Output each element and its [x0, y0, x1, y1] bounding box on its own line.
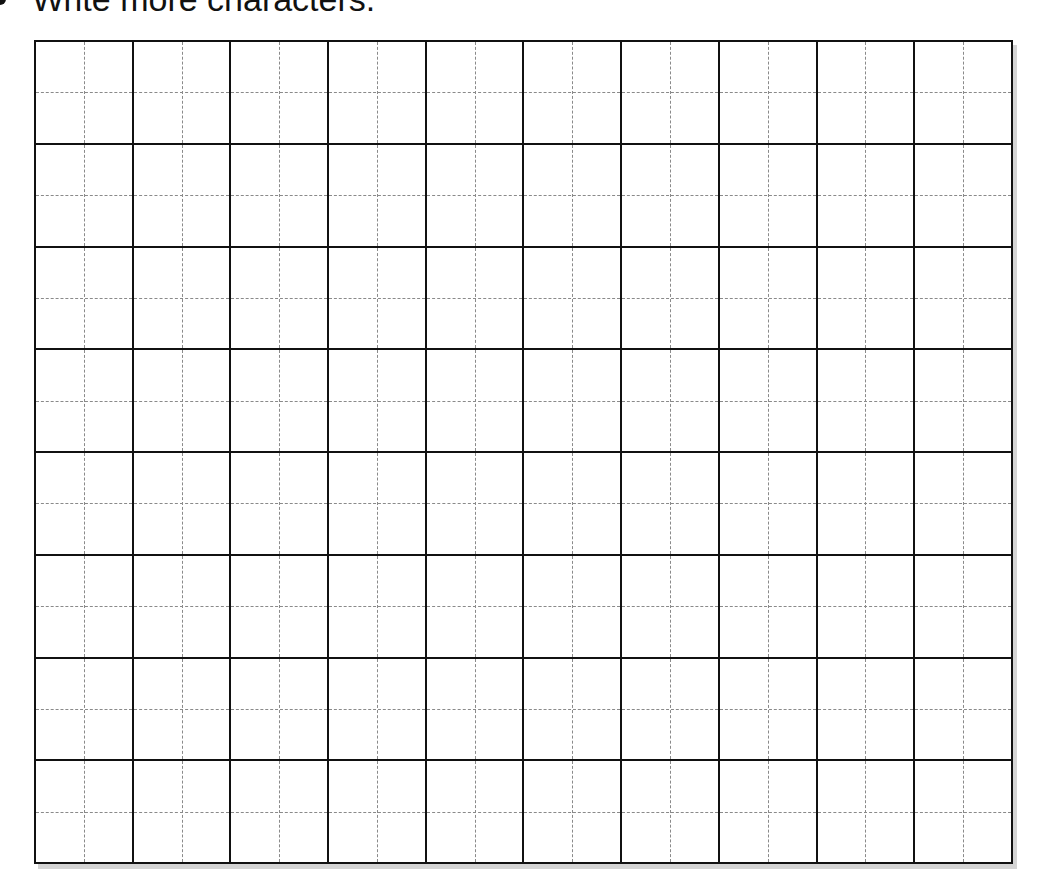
writing-cell[interactable]	[36, 556, 134, 659]
writing-cell[interactable]	[231, 145, 329, 248]
writing-cell[interactable]	[427, 761, 525, 864]
writing-cell[interactable]	[818, 556, 916, 659]
writing-cell[interactable]	[915, 453, 1013, 556]
horizontal-guide-line	[231, 606, 327, 607]
horizontal-guide-line	[720, 606, 816, 607]
horizontal-guide-line	[134, 195, 230, 196]
writing-cell[interactable]	[622, 453, 720, 556]
writing-cell[interactable]	[818, 248, 916, 351]
writing-cell[interactable]	[915, 145, 1013, 248]
writing-cell[interactable]	[231, 42, 329, 145]
writing-cell[interactable]	[231, 761, 329, 864]
writing-cell[interactable]	[231, 556, 329, 659]
writing-cell[interactable]	[134, 761, 232, 864]
horizontal-guide-line	[231, 195, 327, 196]
horizontal-guide-line	[329, 503, 425, 504]
horizontal-guide-line	[231, 401, 327, 402]
writing-cell[interactable]	[524, 350, 622, 453]
writing-cell[interactable]	[36, 453, 134, 556]
writing-cell[interactable]	[231, 248, 329, 351]
writing-cell[interactable]	[329, 350, 427, 453]
writing-cell[interactable]	[231, 453, 329, 556]
bullet-icon	[0, 0, 6, 5]
writing-cell[interactable]	[231, 659, 329, 762]
writing-cell[interactable]	[329, 42, 427, 145]
writing-cell[interactable]	[622, 556, 720, 659]
writing-cell[interactable]	[134, 350, 232, 453]
writing-cell[interactable]	[134, 42, 232, 145]
writing-cell[interactable]	[622, 145, 720, 248]
writing-cell[interactable]	[818, 350, 916, 453]
writing-cell[interactable]	[427, 145, 525, 248]
writing-cell[interactable]	[329, 145, 427, 248]
writing-cell[interactable]	[720, 350, 818, 453]
horizontal-guide-line	[134, 606, 230, 607]
writing-cell[interactable]	[915, 42, 1013, 145]
horizontal-guide-line	[329, 606, 425, 607]
writing-cell[interactable]	[720, 42, 818, 145]
writing-cell[interactable]	[720, 145, 818, 248]
writing-cell[interactable]	[134, 145, 232, 248]
writing-cell[interactable]	[427, 659, 525, 762]
horizontal-guide-line	[36, 401, 132, 402]
writing-cell[interactable]	[427, 556, 525, 659]
writing-cell[interactable]	[134, 556, 232, 659]
writing-cell[interactable]	[134, 453, 232, 556]
writing-cell[interactable]	[818, 453, 916, 556]
writing-cell[interactable]	[427, 350, 525, 453]
writing-cell[interactable]	[36, 350, 134, 453]
writing-cell[interactable]	[915, 659, 1013, 762]
writing-cell[interactable]	[720, 659, 818, 762]
writing-cell[interactable]	[329, 556, 427, 659]
writing-cell[interactable]	[36, 248, 134, 351]
writing-cell[interactable]	[134, 659, 232, 762]
writing-cell[interactable]	[231, 350, 329, 453]
writing-cell[interactable]	[524, 556, 622, 659]
writing-cell[interactable]	[524, 42, 622, 145]
horizontal-guide-line	[36, 92, 132, 93]
writing-cell[interactable]	[36, 145, 134, 248]
writing-cell[interactable]	[818, 42, 916, 145]
horizontal-guide-line	[134, 298, 230, 299]
writing-cell[interactable]	[36, 42, 134, 145]
writing-cell[interactable]	[818, 145, 916, 248]
writing-cell[interactable]	[622, 350, 720, 453]
writing-cell[interactable]	[622, 248, 720, 351]
writing-cell[interactable]	[329, 453, 427, 556]
horizontal-guide-line	[329, 812, 425, 813]
writing-cell[interactable]	[915, 761, 1013, 864]
writing-cell[interactable]	[915, 556, 1013, 659]
character-practice-grid	[34, 40, 1013, 864]
writing-cell[interactable]	[427, 453, 525, 556]
writing-cell[interactable]	[329, 761, 427, 864]
horizontal-guide-line	[36, 812, 132, 813]
writing-cell[interactable]	[427, 42, 525, 145]
writing-cell[interactable]	[524, 248, 622, 351]
writing-cell[interactable]	[818, 761, 916, 864]
writing-cell[interactable]	[524, 659, 622, 762]
writing-cell[interactable]	[622, 42, 720, 145]
writing-cell[interactable]	[524, 761, 622, 864]
writing-cell[interactable]	[720, 761, 818, 864]
writing-cell[interactable]	[622, 659, 720, 762]
writing-cell[interactable]	[329, 659, 427, 762]
writing-cell[interactable]	[134, 248, 232, 351]
writing-cell[interactable]	[36, 761, 134, 864]
writing-cell[interactable]	[720, 556, 818, 659]
writing-cell[interactable]	[427, 248, 525, 351]
writing-cell[interactable]	[720, 453, 818, 556]
writing-cell[interactable]	[915, 350, 1013, 453]
writing-cell[interactable]	[329, 248, 427, 351]
writing-cell[interactable]	[915, 248, 1013, 351]
writing-cell[interactable]	[36, 659, 134, 762]
horizontal-guide-line	[524, 709, 620, 710]
writing-cell[interactable]	[818, 659, 916, 762]
writing-cell[interactable]	[720, 248, 818, 351]
writing-cell[interactable]	[524, 453, 622, 556]
horizontal-guide-line	[427, 298, 523, 299]
writing-cell[interactable]	[622, 761, 720, 864]
horizontal-guide-line	[818, 503, 914, 504]
writing-cell[interactable]	[524, 145, 622, 248]
horizontal-guide-line	[818, 401, 914, 402]
horizontal-guide-line	[720, 401, 816, 402]
